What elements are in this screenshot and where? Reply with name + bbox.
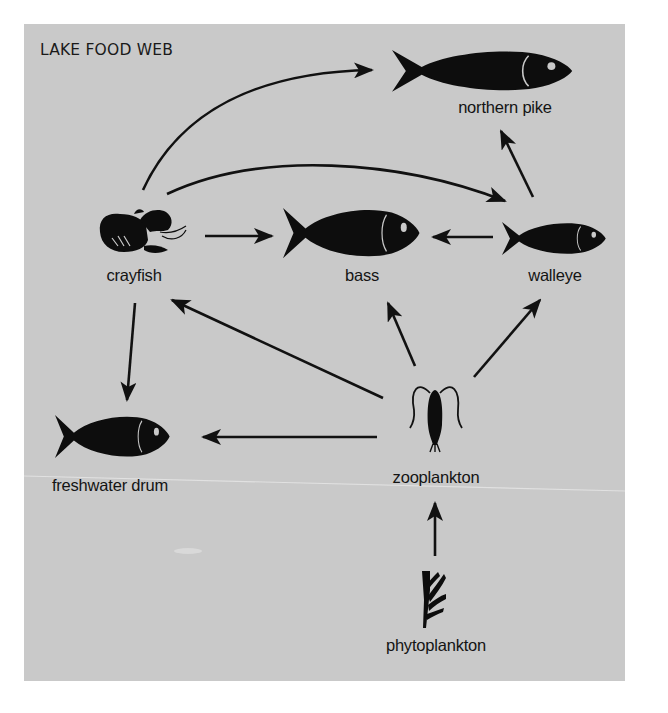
arrow-zooplankton-to-crayfish xyxy=(172,300,383,398)
arrow-zooplankton-to-walleye xyxy=(474,300,540,377)
label-freshwater-drum: freshwater drum xyxy=(52,476,168,495)
label-northern-pike: northern pike xyxy=(458,98,552,117)
bass-fish-icon xyxy=(283,208,420,258)
diagram-title: LAKE FOOD WEB xyxy=(40,41,173,59)
scan-smudge xyxy=(174,548,202,554)
label-crayfish: crayfish xyxy=(106,266,161,285)
copepod-icon xyxy=(410,387,462,452)
northern-pike-fish-icon xyxy=(392,50,572,92)
arrow-crayfish-to-drum xyxy=(127,303,135,400)
crayfish-icon xyxy=(100,209,186,253)
arrow-crayfish-to-walleye xyxy=(167,165,505,201)
algae-icon xyxy=(422,571,446,628)
arrow-walleye-to-pike xyxy=(501,131,533,197)
label-zooplankton: zooplankton xyxy=(393,468,480,487)
arrow-crayfish-to-pike xyxy=(143,70,372,190)
label-bass: bass xyxy=(345,266,379,285)
label-phytoplankton: phytoplankton xyxy=(386,636,486,655)
freshwater-drum-fish-icon xyxy=(55,415,170,458)
walleye-fish-icon xyxy=(502,222,606,255)
label-walleye: walleye xyxy=(528,266,582,285)
food-web-diagram xyxy=(0,0,668,713)
arrow-zooplankton-to-bass xyxy=(388,303,415,366)
